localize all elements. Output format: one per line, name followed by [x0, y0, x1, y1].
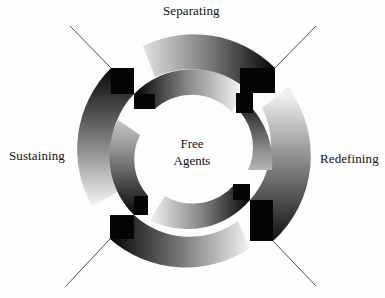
- center-label-line1: Free: [152, 135, 232, 152]
- center-label-line2: Agents: [152, 152, 232, 169]
- connector-line-bottom-left: [66, 239, 110, 286]
- joint-block-top-left-inner: [134, 94, 155, 109]
- center-label: Free Agents: [152, 135, 232, 169]
- stage-label-sustaining: Sustaining: [9, 148, 65, 164]
- stage-label-redefining: Redefining: [320, 151, 379, 167]
- joint-block-bottom-left-inner: [134, 196, 148, 215]
- joint-block-bottom-left: [110, 215, 134, 239]
- joint-block-bottom-right-inner: [233, 184, 250, 200]
- joint-block-top-right: [240, 68, 275, 93]
- stage-label-separating: Separating: [163, 3, 220, 19]
- connector-line-top-right: [275, 26, 316, 68]
- joint-block-top-left: [111, 68, 134, 94]
- connector-line-top-left: [70, 26, 111, 68]
- joint-block-bottom-right: [250, 200, 273, 241]
- joint-block-top-right-inner: [236, 93, 253, 113]
- connector-line-bottom-right: [273, 241, 316, 286]
